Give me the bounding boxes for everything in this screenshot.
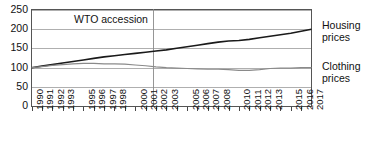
data-series (32, 29, 312, 70)
legend-clothing-line2: prices (322, 72, 350, 84)
y-tick-100: 100 (10, 62, 28, 73)
x-tick-label-2013: 2013 (274, 89, 284, 110)
legend-housing: Housing prices (322, 20, 361, 44)
y-tick-150: 150 (10, 42, 28, 53)
y-axis-tick-labels: 250 200 150 100 50 0 (0, 0, 28, 158)
x-tick-label-2017: 2017 (315, 89, 325, 110)
y-tick-250: 250 (10, 4, 28, 15)
x-tick-label-2008: 2008 (222, 89, 232, 110)
x-tick-label-2012: 2012 (263, 89, 273, 110)
x-tick-label-2011: 2011 (253, 90, 263, 110)
legend-housing-line2: prices (322, 31, 350, 43)
x-tick-label-2003: 2003 (170, 89, 180, 110)
x-tick-label-1993: 1993 (66, 89, 76, 110)
x-tick-label-2005: 2005 (191, 89, 201, 110)
x-tick-label-1996: 1996 (97, 89, 107, 110)
x-tick-label-1995: 1995 (87, 89, 97, 110)
x-tick-label-1992: 1992 (56, 89, 66, 110)
x-tick-label-2015: 2015 (294, 89, 304, 110)
x-tick-label-2000: 2000 (139, 89, 149, 110)
series-line-1 (32, 63, 312, 70)
x-tick-label-2006: 2006 (201, 89, 211, 110)
legend-clothing: Clothing prices (322, 61, 361, 85)
x-tick-label-2016: 2016 (305, 89, 315, 110)
x-tick-label-2002: 2002 (159, 89, 169, 110)
x-tick-label-1998: 1998 (118, 89, 128, 110)
price-index-line-chart: 250 200 150 100 50 0 WTO accession Housi… (0, 0, 366, 158)
legend-housing-line1: Housing (322, 19, 361, 31)
legend-clothing-line1: Clothing (322, 60, 361, 72)
x-tick-label-2010: 2010 (242, 89, 252, 110)
y-tick-50: 50 (16, 81, 28, 92)
x-tick-label-2007: 2007 (211, 89, 221, 110)
x-axis-tick-labels: 1990199119921993199519961997199820002001… (31, 110, 312, 158)
x-tick-label-1991: 1991 (45, 89, 55, 110)
y-tick-0: 0 (22, 100, 28, 111)
x-tick-label-1997: 1997 (108, 89, 118, 110)
y-tick-200: 200 (10, 23, 28, 34)
wto-accession-label: WTO accession (74, 13, 148, 25)
